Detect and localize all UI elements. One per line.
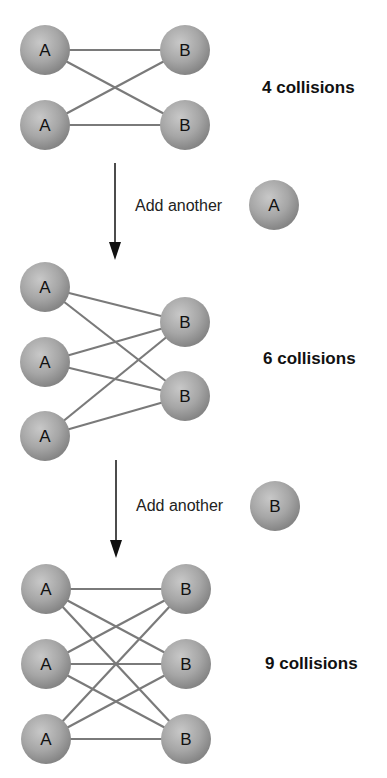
ball-label: A xyxy=(40,580,52,599)
molecule-b: B xyxy=(160,100,210,150)
ball-label: A xyxy=(40,655,52,674)
collision-diagram: AABBAAABBAAABBBAB 4 collisions6 collisio… xyxy=(0,0,387,778)
ball-label: B xyxy=(179,313,190,332)
add-another-label: Add another xyxy=(135,197,223,214)
ball-label: B xyxy=(179,41,190,60)
molecule-b: B xyxy=(160,297,210,347)
added-molecule-a: A xyxy=(249,180,299,230)
collisions-count: 9 collisions xyxy=(265,654,358,673)
ball-label: A xyxy=(268,196,280,215)
molecule-a: A xyxy=(20,25,70,75)
collisions-count: 4 collisions xyxy=(262,78,355,97)
molecule-a: A xyxy=(21,714,71,764)
ball-label: B xyxy=(269,497,280,516)
molecule-b: B xyxy=(161,639,211,689)
molecule-b: B xyxy=(161,564,211,614)
ball-label: A xyxy=(40,730,52,749)
ball-label: A xyxy=(39,353,51,372)
molecules: AABBAAABBAAABBBAB xyxy=(20,25,300,764)
molecule-b: B xyxy=(161,714,211,764)
ball-label: A xyxy=(39,278,51,297)
ball-label: B xyxy=(180,580,191,599)
transition-arrows xyxy=(109,163,122,558)
ball-label: B xyxy=(179,387,190,406)
molecule-a: A xyxy=(21,639,71,689)
ball-label: B xyxy=(180,655,191,674)
molecule-a: A xyxy=(20,337,70,387)
ball-label: B xyxy=(180,730,191,749)
ball-label: B xyxy=(179,116,190,135)
molecule-b: B xyxy=(160,25,210,75)
molecule-b: B xyxy=(160,371,210,421)
molecule-a: A xyxy=(20,262,70,312)
molecule-a: A xyxy=(20,100,70,150)
add-another-label: Add another xyxy=(136,497,224,514)
molecule-a: A xyxy=(21,564,71,614)
ball-label: A xyxy=(39,427,51,446)
collisions-count: 6 collisions xyxy=(263,349,356,368)
added-molecule-b: B xyxy=(250,481,300,531)
arrow-down-icon xyxy=(110,540,122,558)
ball-label: A xyxy=(39,116,51,135)
molecule-a: A xyxy=(20,411,70,461)
ball-label: A xyxy=(39,41,51,60)
arrow-down-icon xyxy=(109,242,121,260)
